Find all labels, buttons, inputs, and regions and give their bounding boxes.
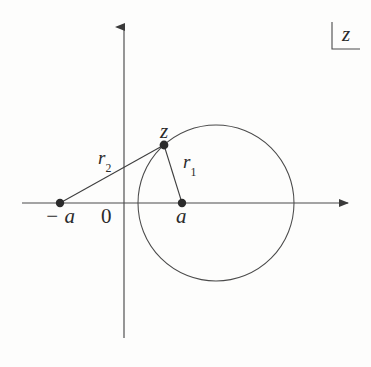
segment-label-r1: r1 [183,152,196,176]
complex-plane-figure: z z r1 r2 − a 0 a [0,0,371,367]
point-label-minus-a: − a [45,206,75,227]
segment-r1 [164,145,182,203]
figure-canvas [0,0,371,367]
origin-label: 0 [101,206,112,227]
segment-label-r2: r2 [98,148,111,172]
point-label-a: a [176,206,187,227]
segment-r2 [60,145,164,203]
segment-label-r1-subscript: 1 [190,166,196,179]
plane-label-z: z [342,24,350,45]
point-label-z: z [160,121,168,142]
segment-label-r2-subscript: 2 [105,162,111,175]
